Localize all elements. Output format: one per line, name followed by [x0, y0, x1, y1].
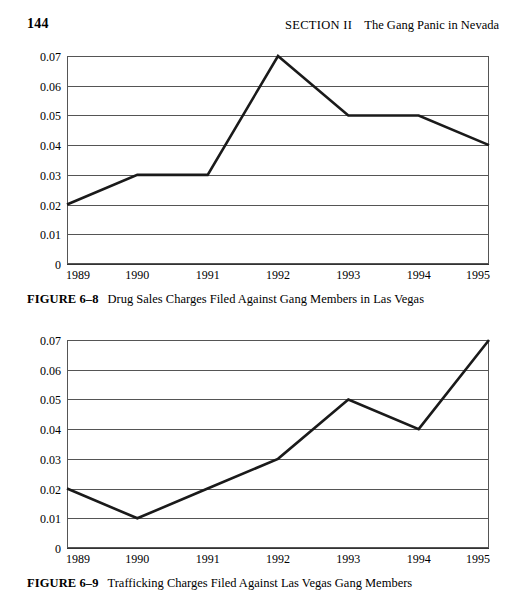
x-axis-tick-label: 1995	[466, 268, 490, 282]
x-axis-tick-label: 1990	[125, 552, 149, 566]
x-axis-tick-label: 1992	[266, 552, 290, 566]
figure-1-caption: FIGURE 6–8Drug Sales Charges Filed Again…	[27, 291, 497, 307]
y-axis-tick-label: 0.07	[40, 50, 61, 64]
y-axis-tick-label: 0.01	[40, 228, 61, 242]
chart-1-plot-area: 00.010.020.030.040.050.060.0719891990199…	[27, 46, 497, 288]
y-axis-tick-label: 0.07	[40, 334, 61, 348]
x-axis-tick-label: 1990	[125, 268, 149, 282]
y-axis-tick-label: 0.04	[40, 423, 61, 437]
figure-1-caption-text: Drug Sales Charges Filed Against Gang Me…	[108, 292, 425, 306]
x-axis-tick-label: 1991	[196, 268, 220, 282]
y-axis-tick-label: 0.06	[40, 364, 61, 378]
page: 144 SECTION II The Gang Panic in Nevada …	[0, 0, 521, 612]
y-axis-tick-label: 0.01	[40, 512, 61, 526]
x-axis-tick-label: 1993	[336, 268, 360, 282]
page-number: 144	[27, 16, 49, 32]
x-axis-tick-label: 1992	[266, 268, 290, 282]
figure-6-8: 00.010.020.030.040.050.060.0719891990199…	[27, 46, 497, 307]
header-section-label: SECTION II	[285, 18, 352, 32]
chart-1-svg: 00.010.020.030.040.050.060.0719891990199…	[27, 46, 497, 288]
header-chapter-title: The Gang Panic in Nevada	[364, 18, 499, 32]
figure-6-9: 00.010.020.030.040.050.060.0719891990199…	[27, 330, 497, 591]
figure-1-label: FIGURE 6–8	[27, 292, 99, 306]
figure-2-caption-text: Trafficking Charges Filed Against Las Ve…	[108, 576, 413, 590]
y-axis-tick-label: 0.02	[40, 199, 61, 213]
x-axis-tick-label: 1995	[466, 552, 490, 566]
y-axis-tick-label: 0.03	[40, 453, 61, 467]
x-axis-tick-label: 1989	[66, 268, 90, 282]
x-axis-tick-label: 1994	[407, 268, 431, 282]
x-axis-tick-label: 1991	[196, 552, 220, 566]
y-axis-tick-label: 0	[55, 258, 61, 272]
chart-frame	[68, 57, 489, 264]
header-right: SECTION II The Gang Panic in Nevada	[285, 18, 499, 33]
data-series-line	[67, 56, 489, 205]
figure-2-caption: FIGURE 6–9Trafficking Charges Filed Agai…	[27, 575, 497, 591]
y-axis-tick-label: 0.02	[40, 483, 61, 497]
y-axis-tick-label: 0.03	[40, 169, 61, 183]
chart-2-svg: 00.010.020.030.040.050.060.0719891990199…	[27, 330, 497, 572]
y-axis-tick-label: 0.04	[40, 139, 61, 153]
running-head: 144 SECTION II The Gang Panic in Nevada	[27, 16, 499, 36]
x-axis-tick-label: 1989	[66, 552, 90, 566]
y-axis-tick-label: 0.05	[40, 393, 61, 407]
y-axis-tick-label: 0.05	[40, 109, 61, 123]
x-axis-tick-label: 1994	[407, 552, 431, 566]
y-axis-tick-label: 0.06	[40, 80, 61, 94]
figure-2-label: FIGURE 6–9	[27, 576, 99, 590]
y-axis-tick-label: 0	[55, 542, 61, 556]
x-axis-tick-label: 1993	[336, 552, 360, 566]
chart-2-plot-area: 00.010.020.030.040.050.060.0719891990199…	[27, 330, 497, 572]
